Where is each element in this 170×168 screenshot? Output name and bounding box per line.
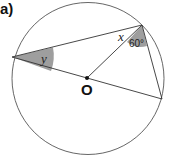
- angle-y-shade: [12, 48, 54, 72]
- chord-topright-bottomright: [142, 25, 162, 99]
- angle-60-label: 60°: [129, 38, 144, 49]
- angle-x-label: x: [117, 29, 124, 44]
- circle-theorem-diagram: a) O x y 60°: [0, 0, 170, 168]
- part-label: a): [0, 0, 13, 17]
- radius-to-topright: [87, 25, 142, 78]
- angle-y-label: y: [39, 51, 47, 66]
- center-point: [85, 76, 89, 80]
- center-label: O: [81, 81, 93, 98]
